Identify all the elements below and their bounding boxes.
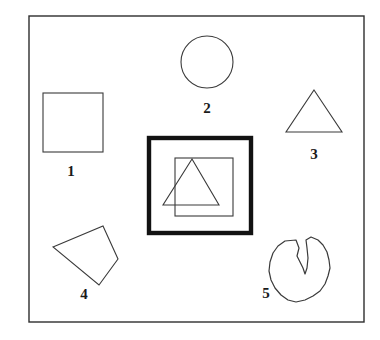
triangle-shape-3 (286, 90, 342, 132)
shape-group-3: 3 (286, 90, 342, 162)
shape-label-4: 4 (80, 286, 88, 302)
shape-label-1: 1 (67, 163, 75, 179)
shape-label-2: 2 (203, 100, 211, 116)
figure-canvas: 1 2 3 4 5 (0, 0, 380, 340)
outer-frame-rect (29, 16, 364, 322)
square-shape-1 (43, 93, 103, 152)
shape-group-1: 1 (43, 93, 103, 179)
shape-label-5: 5 (262, 285, 270, 301)
bold-frame-rect (149, 138, 251, 233)
shape-group-4: 4 (53, 226, 118, 302)
inner-square-shape (175, 158, 233, 216)
circle-shape-2 (181, 36, 233, 88)
notched-blob-shape-5 (269, 237, 330, 302)
shape-label-3: 3 (310, 146, 318, 162)
shape-group-2: 2 (181, 36, 233, 116)
shapes-diagram: 1 2 3 4 5 (0, 0, 380, 340)
shape-group-5: 5 (262, 237, 330, 302)
group-box-highlight (149, 138, 251, 233)
quadrilateral-shape-4 (53, 226, 118, 285)
inner-triangle-shape (163, 159, 219, 205)
